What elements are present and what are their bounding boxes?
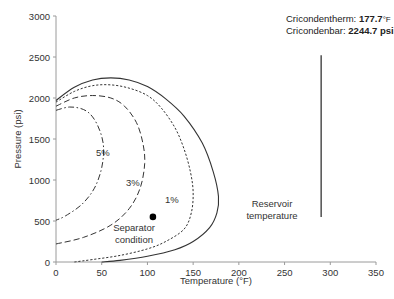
label-5-percent: 5% [96,147,110,158]
cricondentherm-value: 177.7 [359,13,383,24]
label-3-percent: 3% [126,177,140,188]
x-tick-label: 50 [96,267,107,278]
x-axis-title: Temperature (°F) [180,275,252,286]
reservoir-label-line2: temperature [246,210,297,221]
separator-label-line1: Separator [113,222,155,233]
separator-condition-point [150,214,157,221]
cricondentherm-label: Cricondentherm: [286,13,359,24]
x-tick-label: 100 [139,267,155,278]
reservoir-label-line1: Reservoir [252,198,293,209]
y-tick-label: 2000 [29,93,50,104]
y-tick-label: 1500 [29,134,50,145]
y-axis-ticks: 050010001500200025003000 [29,11,56,268]
y-tick-label: 2500 [29,52,50,63]
y-axis-title: Pressure (psi) [12,109,23,168]
y-tick-label: 0 [45,257,50,268]
cricondenbar-label: Cricondenbar: [286,25,348,36]
cricondenbar-value: 2244.7 psi [348,25,393,36]
y-tick-label: 1000 [29,175,50,186]
curve-dash-dot [56,107,104,220]
x-tick-label: 0 [53,267,58,278]
label-1-percent: 1% [165,194,179,205]
separator-label-line2: condition [115,234,153,245]
y-tick-label: 500 [34,216,50,227]
cricondentherm-unit: °F [383,15,391,24]
x-tick-label: 250 [277,267,293,278]
x-tick-label: 300 [322,267,338,278]
x-tick-label: 350 [368,267,384,278]
cricondenbar-annotation: Cricondenbar: 2244.7 psi [286,25,394,37]
y-tick-label: 3000 [29,11,50,22]
